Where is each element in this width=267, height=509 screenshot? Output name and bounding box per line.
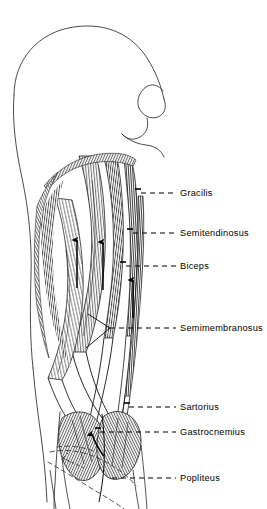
- label-popliteus: Popliteus: [180, 474, 220, 483]
- label-semimembranosus: Semimembranosus: [180, 324, 263, 333]
- muscle-gastrocnemius: [59, 412, 141, 503]
- label-gracilis: Gracilis: [180, 189, 213, 198]
- label-sartorius: Sartorius: [180, 403, 219, 412]
- label-semitendinosus: Semitendinosus: [180, 229, 249, 238]
- label-biceps: Biceps: [180, 262, 209, 271]
- anatomy-figure: Gracilis Semitendinosus Biceps Semimembr…: [0, 0, 267, 509]
- label-gastrocnemius: Gastrocnemius: [180, 428, 245, 437]
